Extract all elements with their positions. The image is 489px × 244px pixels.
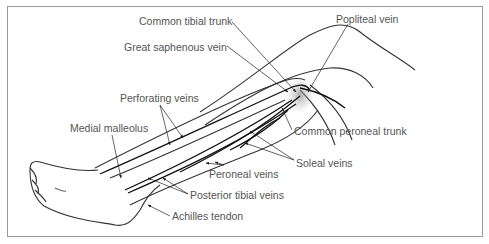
label-popliteal-vein: Popliteal vein — [336, 13, 398, 25]
label-common-peroneal-trunk: Common peroneal trunk — [294, 125, 407, 137]
label-soleal-veins: Soleal veins — [296, 157, 353, 169]
label-achilles-tendon: Achilles tendon — [172, 210, 243, 222]
label-peroneal-veins: Peroneal veins — [209, 168, 278, 180]
label-posterior-tibial-veins: Posterior tibial veins — [190, 189, 284, 201]
label-great-saphenous-vein: Great saphenous vein — [124, 41, 227, 53]
label-medial-malleolus: Medial malleolus — [70, 122, 148, 134]
label-perforating-veins: Perforating veins — [120, 92, 199, 104]
label-common-tibial-trunk: Common tibial trunk — [139, 15, 232, 27]
